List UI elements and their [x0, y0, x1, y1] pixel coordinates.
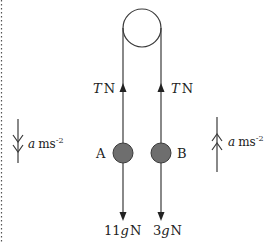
weight-label-a: 11gN: [104, 223, 141, 238]
mass-b: [151, 143, 171, 163]
weight-arrow-a-icon: [120, 212, 127, 221]
acceleration-arrow-left-icon: [13, 119, 23, 163]
weight-arrow-b-icon: [158, 212, 165, 221]
tension-arrow-right-icon: [158, 83, 165, 92]
acceleration-label-right: ams-2: [228, 134, 264, 149]
weight-label-b: 3gN: [153, 223, 182, 238]
tension-label-right: TN: [171, 81, 193, 96]
pulley-diagram: TN TN A B 11gN 3gN ams-2 ams-2: [0, 0, 273, 243]
mass-b-label: B: [177, 146, 187, 161]
acceleration-label-left: ams-2: [28, 136, 64, 151]
mass-a-label: A: [95, 146, 106, 161]
tension-arrow-left-icon: [120, 83, 127, 92]
pulley-wheel: [123, 9, 161, 47]
acceleration-arrow-right-icon: [212, 117, 222, 172]
tension-label-left: TN: [93, 81, 115, 96]
mass-a: [113, 143, 133, 163]
